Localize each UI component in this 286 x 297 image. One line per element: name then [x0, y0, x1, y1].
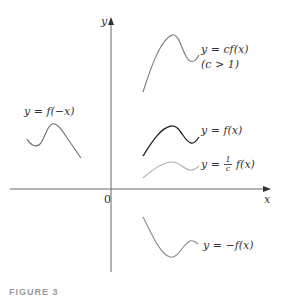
curve-inv-c-f [143, 162, 199, 178]
label-cf: y = cf(x) [201, 44, 248, 55]
y-axis-arrow-icon [108, 17, 114, 25]
x-axis-arrow-icon [263, 186, 271, 192]
curve-f [143, 126, 199, 156]
label-cf-condition: (c > 1) [201, 59, 239, 70]
label-neg-f: y = −f(x) [203, 240, 254, 251]
y-axis-label: y [101, 16, 107, 27]
label-f: y = f(x) [201, 125, 242, 136]
curve-f-neg-x [27, 124, 81, 158]
label-inv-c-f-prefix: y = [201, 158, 220, 171]
curve-cf [143, 35, 199, 92]
label-inv-c-f: y = 1 c f(x) [201, 156, 255, 173]
label-inv-c-f-suffix: f(x) [236, 158, 255, 171]
fraction-denominator: c [224, 165, 231, 173]
fraction-one-over-c: 1 c [224, 156, 231, 173]
label-f-neg-x: y = f(−x) [24, 106, 75, 117]
x-axis-label: x [264, 194, 270, 205]
origin-label: 0 [104, 194, 111, 205]
figure-caption: FIGURE 3 [9, 287, 59, 297]
curve-neg-f [143, 217, 198, 257]
